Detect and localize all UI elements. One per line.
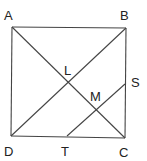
side-cd: [11, 136, 125, 138]
segments: [11, 27, 126, 138]
label-s: S: [131, 75, 140, 90]
side-bc: [125, 28, 126, 138]
label-a: A: [4, 8, 13, 23]
label-t: T: [61, 144, 69, 159]
geometry-diagram: A B C D L M S T: [0, 0, 147, 161]
label-c: C: [119, 145, 128, 160]
diagonal-bd: [11, 28, 126, 136]
label-b: B: [120, 8, 129, 23]
label-l: L: [64, 63, 71, 78]
label-d: D: [4, 144, 13, 159]
label-m: M: [90, 89, 101, 104]
side-ab: [12, 27, 126, 28]
side-da: [11, 27, 12, 136]
